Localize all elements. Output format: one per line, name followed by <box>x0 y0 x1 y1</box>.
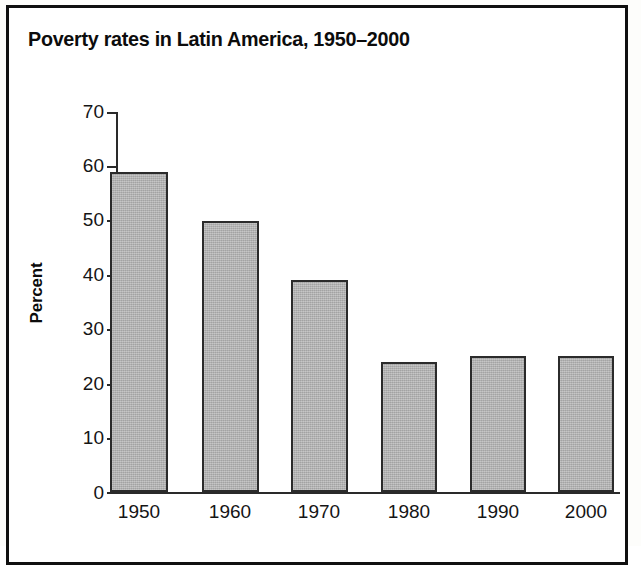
y-tick-label-40: 40 <box>58 264 104 286</box>
y-tick-label-50: 50 <box>58 209 104 231</box>
bar-1970[interactable] <box>291 280 348 492</box>
x-axis-line <box>108 492 620 494</box>
y-tick-label-20: 20 <box>58 373 104 395</box>
y-tick-label-70: 70 <box>58 101 104 123</box>
x-tick-label-1990: 1990 <box>453 501 543 523</box>
x-tick-label-1960: 1960 <box>185 501 275 523</box>
bar-1960[interactable] <box>202 221 259 492</box>
bar-2000[interactable] <box>558 356 614 492</box>
bar-1950[interactable] <box>110 172 168 492</box>
y-tick-label-30: 30 <box>58 318 104 340</box>
y-tick-label-10: 10 <box>58 427 104 449</box>
x-tick-label-1950: 1950 <box>94 501 184 523</box>
bar-1990[interactable] <box>470 356 526 492</box>
y-tick-label-60: 60 <box>58 155 104 177</box>
y-axis-label: Percent <box>27 238 47 348</box>
x-tick-label-2000: 2000 <box>541 501 631 523</box>
bar-1980[interactable] <box>381 362 437 492</box>
x-tick-label-1970: 1970 <box>274 501 364 523</box>
x-tick-label-1980: 1980 <box>364 501 454 523</box>
